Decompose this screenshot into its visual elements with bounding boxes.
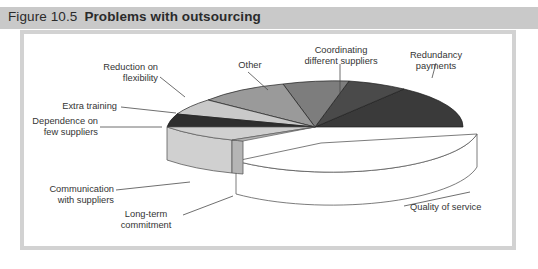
- figure-root: Figure 10.5Problems with outsourcing: [0, 0, 538, 269]
- label-communication-with-suppliers: Communication with suppliers: [30, 184, 114, 207]
- label-longterm-line2: commitment: [110, 220, 182, 231]
- label-longterm-line1: Long-term: [110, 209, 182, 220]
- label-reduction-line1: Reduction on: [60, 62, 158, 73]
- label-reduction-line2: flexibility: [60, 73, 158, 84]
- label-other-text: Other: [222, 60, 278, 71]
- label-other: Other: [222, 60, 278, 71]
- label-coordinating-line1: Coordinating: [289, 45, 393, 56]
- leader-longterm: [183, 196, 233, 215]
- leader-extra-training: [121, 107, 176, 113]
- label-coordinating-different-suppliers: Coordinating different suppliers: [289, 45, 393, 68]
- slice-quality-of-service: [236, 134, 477, 205]
- leader-reduction: [160, 77, 185, 97]
- pie-3d-body: [167, 81, 477, 205]
- label-dependence-line1: Dependence on: [18, 116, 98, 127]
- label-communication-line2: with suppliers: [30, 195, 114, 206]
- slice-wall-longterm: [232, 140, 243, 174]
- label-communication-line1: Communication: [30, 184, 114, 195]
- label-long-term-commitment: Long-term commitment: [110, 209, 182, 232]
- label-coordinating-line2: different suppliers: [289, 56, 393, 67]
- label-dependence-on-few-suppliers: Dependence on few suppliers: [18, 116, 98, 139]
- label-extra-training-text: Extra training: [41, 101, 117, 112]
- label-redundancy-payments-line2: payments: [393, 61, 479, 72]
- label-quality-of-service: Quality of service: [410, 202, 520, 213]
- pie-top-face: [167, 81, 463, 141]
- label-reduction-on-flexibility: Reduction on flexibility: [60, 62, 158, 85]
- label-quality-of-service-text: Quality of service: [410, 202, 520, 213]
- label-redundancy-payments: Redundancy payments: [393, 50, 479, 73]
- label-redundancy-payments-line1: Redundancy: [393, 50, 479, 61]
- label-extra-training: Extra training: [41, 101, 117, 112]
- label-dependence-line2: few suppliers: [18, 127, 98, 138]
- leader-communication: [116, 182, 190, 190]
